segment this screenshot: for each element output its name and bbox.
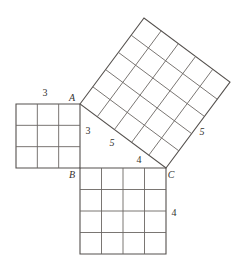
square-on-leg-ab-grid [16,104,80,168]
side-length-label-bc-top: 4 [137,154,142,165]
side-length-label-bc-right: 4 [172,207,177,218]
square-on-leg-bc [80,168,166,254]
vertex-label-a: A [68,92,76,103]
vertex-label-b: B [69,169,75,180]
pythagorean-squares-diagram: A B C 3 3 4 4 5 5 [0,0,242,273]
side-length-label-ab-top: 3 [43,87,48,98]
side-length-label-hypotenuse-right: 5 [200,126,205,137]
square-on-leg-ab [16,104,80,168]
square-on-leg-ab-outline [16,104,80,168]
square-on-hypotenuse-ac [80,18,230,168]
square-on-leg-bc-grid [80,168,166,254]
vertex-label-c: C [168,169,175,180]
square-on-hypotenuse-ac-outline [80,18,230,168]
side-length-label-ab-right: 3 [86,125,91,136]
side-length-label-hypotenuse-left: 5 [110,137,115,148]
